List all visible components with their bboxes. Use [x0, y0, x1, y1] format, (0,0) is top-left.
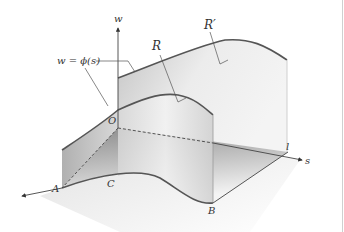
equation-label: w = ϕ(s)	[57, 55, 100, 66]
s-axis-label: s	[305, 155, 310, 166]
phi-leader	[96, 61, 135, 72]
region-r-prime-label: R′	[203, 18, 216, 32]
point-a-label: A	[51, 183, 59, 194]
curve-c-label: C	[107, 178, 115, 189]
right-border-line	[342, 0, 343, 232]
point-b-label: B	[207, 205, 215, 216]
region-r-label: R	[151, 39, 161, 53]
origin-label: O	[108, 115, 116, 126]
w-axis-label: w	[114, 13, 123, 24]
point-l-label: l	[286, 141, 289, 152]
phi-leader-2	[85, 68, 108, 106]
surface-diagram: w s O A B l C R R′ w = ϕ(s)	[0, 0, 344, 232]
